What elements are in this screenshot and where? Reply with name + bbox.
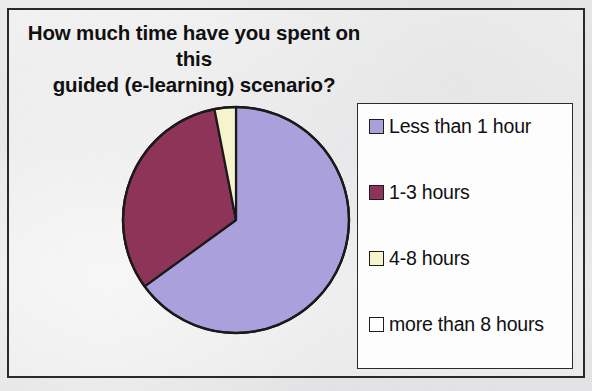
legend-swatch-icon — [369, 251, 384, 266]
legend-swatch-icon — [369, 185, 384, 200]
chart-page: in ing a vanis How much time have you sp… — [0, 0, 592, 391]
legend-swatch-icon — [369, 317, 384, 332]
chart-legend: Less than 1 hour1-3 hours4-8 hoursmore t… — [357, 103, 573, 369]
legend-item: 4-8 hours — [369, 247, 572, 313]
legend-item-label: 1-3 hours — [389, 181, 470, 204]
legend-item-label: more than 8 hours — [389, 313, 544, 336]
legend-item-label: 4-8 hours — [389, 247, 470, 270]
legend-item: 1-3 hours — [369, 181, 572, 247]
legend-swatch-icon — [369, 119, 384, 134]
legend-item: more than 8 hours — [369, 313, 572, 379]
chart-title: How much time have you spent on this gui… — [14, 20, 374, 97]
legend-item: Less than 1 hour — [369, 115, 572, 181]
legend-item-label: Less than 1 hour — [389, 115, 531, 138]
